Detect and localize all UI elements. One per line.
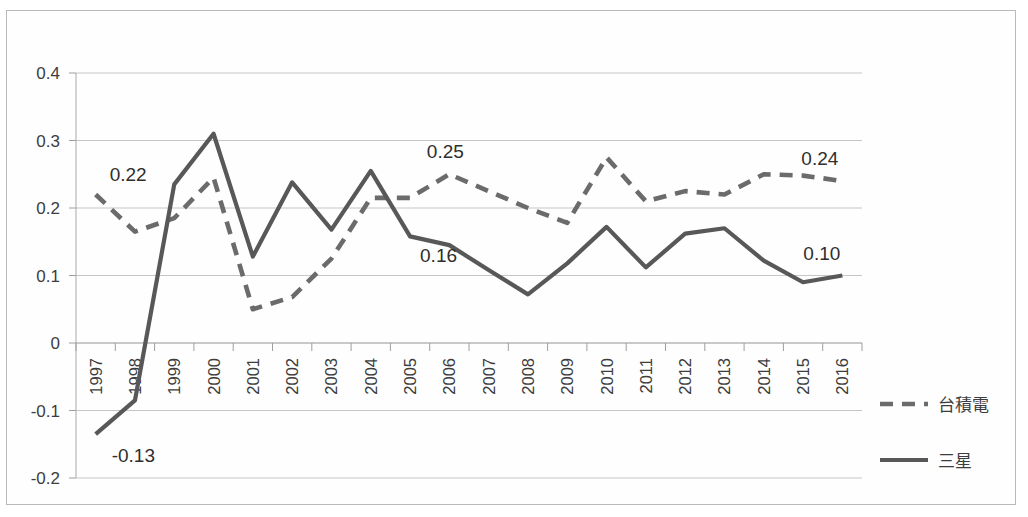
x-axis-tick-label: 2012 <box>676 358 694 395</box>
x-axis-tick-label: 2005 <box>401 358 419 395</box>
chart-legend: 台積電三星 <box>880 395 989 471</box>
data-label: 0.16 <box>420 245 457 266</box>
data-label: 0.10 <box>803 243 840 264</box>
chart-svg: 0.40.30.20.10-0.1-0.2 199719981999200020… <box>0 0 1028 517</box>
y-axis-tick-labels: 0.40.30.20.10-0.1-0.2 <box>31 64 60 488</box>
x-axis-tick-label: 2007 <box>480 358 498 395</box>
x-axis-tick-label: 1997 <box>87 358 105 395</box>
data-label: 0.25 <box>427 141 464 162</box>
x-axis-tick-marks <box>76 343 862 351</box>
data-label: 0.24 <box>801 148 838 169</box>
x-axis-tick-label: 2009 <box>558 358 576 395</box>
x-axis-tick-label: 2006 <box>440 358 458 395</box>
y-axis-tick-label: -0.2 <box>31 469 60 488</box>
data-label: -0.13 <box>112 445 155 466</box>
y-axis-tick-label: 0 <box>51 334 60 353</box>
x-axis-tick-label: 2000 <box>205 358 223 395</box>
x-axis-tick-label: 2002 <box>283 358 301 395</box>
y-axis-tick-label: 0.4 <box>36 64 60 83</box>
x-axis-tick-label: 2010 <box>598 358 616 395</box>
x-axis-tick-label: 2013 <box>715 358 733 395</box>
line-chart: 0.40.30.20.10-0.1-0.2 199719981999200020… <box>0 0 1028 517</box>
y-axis-tick-label: 0.3 <box>36 132 60 151</box>
gridlines <box>76 73 862 478</box>
legend-label: 三星 <box>938 451 972 471</box>
y-axis-tick-marks <box>69 73 76 478</box>
x-axis-tick-label: 2014 <box>755 358 773 395</box>
x-axis-tick-label: 2001 <box>244 358 262 395</box>
x-axis-tick-label: 2015 <box>794 358 812 395</box>
y-axis-tick-label: -0.1 <box>31 402 60 421</box>
legend-label: 台積電 <box>938 395 989 415</box>
x-axis-tick-label: 2004 <box>362 358 380 395</box>
x-axis-tick-label: 2016 <box>833 358 851 395</box>
y-axis-tick-label: 0.2 <box>36 199 60 218</box>
y-axis-tick-label: 0.1 <box>36 267 60 286</box>
x-axis-tick-label: 2003 <box>322 358 340 395</box>
x-axis-tick-label: 1999 <box>165 358 183 395</box>
x-axis-tick-label: 2008 <box>519 358 537 395</box>
x-axis-tick-label: 2011 <box>637 358 655 393</box>
x-axis-tick-labels: 1997199819992000200120022003200420052006… <box>87 358 852 395</box>
data-label: 0.22 <box>110 164 147 185</box>
